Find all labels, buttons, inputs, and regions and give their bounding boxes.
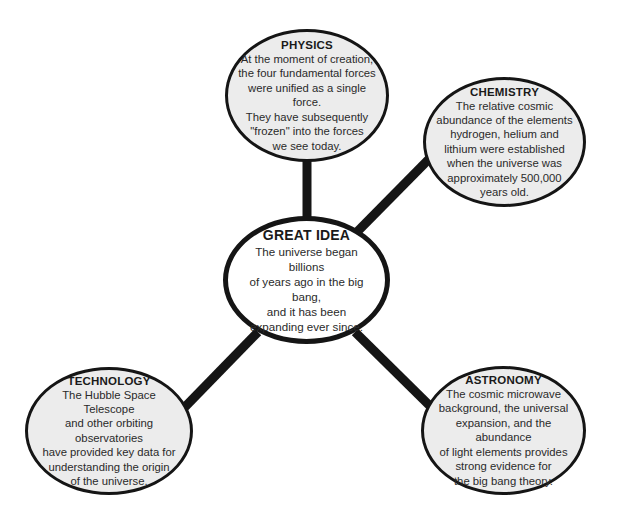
technology-body: The Hubble Space Telescope and other orb… bbox=[38, 388, 180, 489]
physics-title: PHYSICS bbox=[281, 38, 333, 52]
astronomy-title: ASTRONOMY bbox=[465, 373, 542, 387]
chemistry-title: CHEMISTRY bbox=[470, 85, 539, 99]
physics-body: At the moment of creation, the four fund… bbox=[238, 52, 376, 153]
connector-technology bbox=[182, 332, 258, 410]
technology-node: TECHNOLOGY The Hubble Space Telescope an… bbox=[25, 367, 193, 495]
chemistry-node: CHEMISTRY The relative cosmic abundance … bbox=[423, 77, 586, 207]
great-idea-node: GREAT IDEA The universe began billions o… bbox=[223, 216, 390, 344]
great-idea-body: The universe began billions of years ago… bbox=[238, 244, 375, 334]
physics-node: PHYSICS At the moment of creation, the f… bbox=[225, 29, 389, 162]
great-idea-title: GREAT IDEA bbox=[263, 227, 350, 244]
astronomy-node: ASTRONOMY The cosmic microwave backgroun… bbox=[421, 366, 586, 495]
connector-chemistry bbox=[355, 158, 430, 234]
chemistry-body: The relative cosmic abundance of the ele… bbox=[436, 99, 572, 200]
astronomy-body: The cosmic microwave background, the uni… bbox=[434, 387, 573, 488]
technology-title: TECHNOLOGY bbox=[67, 374, 150, 388]
connector-astronomy bbox=[355, 332, 432, 408]
